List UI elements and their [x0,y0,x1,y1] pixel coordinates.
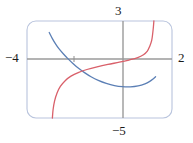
red-curve [52,21,154,118]
blue-curve [49,33,155,87]
viewport-frame [27,21,172,118]
axis-label-xmin: −4 [5,51,19,64]
axis-label-xmax: 2 [178,51,185,64]
graph-figure: −4 2 3 −5 [0,0,193,143]
axis-label-ymax: 3 [115,4,122,17]
axis-label-ymin: −5 [112,124,126,137]
plot-canvas [0,0,193,143]
